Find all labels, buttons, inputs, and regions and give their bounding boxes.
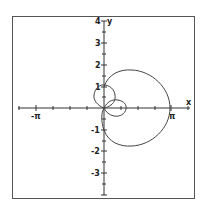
x-axis-label: x xyxy=(186,98,192,107)
y-tick-label-neg3: -3 xyxy=(91,169,100,178)
y-tick-label-neg1: -1 xyxy=(91,126,100,135)
x-tick-label-neg-pi: -π xyxy=(31,112,41,121)
y-axis-label: y xyxy=(107,17,113,26)
y-tick-label-3: 3 xyxy=(95,39,101,48)
y-tick-label-neg2: -2 xyxy=(91,147,100,156)
y-tick-label-4: 4 xyxy=(95,17,101,26)
y-tick-label-2: 2 xyxy=(95,61,101,70)
plot-canvas: 4 y 3 2 1 -1 -2 -3 -π π x xyxy=(0,0,205,210)
